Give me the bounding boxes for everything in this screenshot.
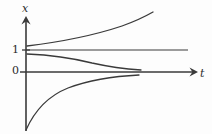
lower-rising-curve — [26, 75, 139, 130]
horizontal-axis-label: t — [200, 68, 204, 79]
y-tick-label-one: 1 — [12, 44, 19, 55]
phase-portrait-figure: x t 1 0 — [0, 0, 212, 134]
middle-decaying-curve — [27, 54, 141, 70]
vertical-axis — [21, 16, 30, 131]
y-tick-label-zero: 0 — [12, 65, 19, 76]
horizontal-axis — [20, 68, 198, 77]
upper-divergent-curve — [27, 12, 153, 46]
plot-canvas — [0, 0, 212, 134]
vertical-axis-label: x — [22, 3, 28, 14]
